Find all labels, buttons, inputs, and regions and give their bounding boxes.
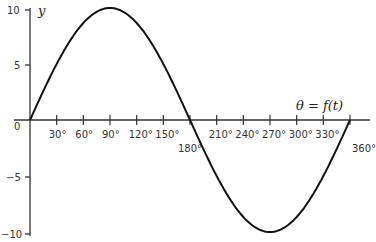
y-tick-neg5: −5 bbox=[6, 172, 21, 183]
x-tick-300: 300° bbox=[289, 129, 313, 140]
x-tick-240: 240° bbox=[235, 129, 259, 140]
x-tick-210: 210° bbox=[209, 129, 233, 140]
sine-chart: 30°60°90°120°150°180°210°240°270°300°330… bbox=[0, 0, 376, 242]
y-tick-neg10: −10 bbox=[1, 229, 22, 240]
x-tick-180: 180° bbox=[178, 143, 202, 154]
x-tick-120: 120° bbox=[129, 129, 153, 140]
y-axis-label: y bbox=[37, 3, 46, 18]
x-tick-60: 60° bbox=[75, 129, 93, 140]
y-tick-0: 0 bbox=[14, 121, 20, 132]
x-tick-90: 90° bbox=[102, 129, 120, 140]
x-tick-360: 360° bbox=[352, 143, 376, 154]
x-tick-150: 150° bbox=[155, 129, 179, 140]
x-tick-30: 30° bbox=[49, 129, 67, 140]
y-tick-5: 5 bbox=[14, 60, 20, 71]
x-tick-330: 330° bbox=[315, 129, 339, 140]
x-axis-label: θ = f(t) bbox=[296, 98, 343, 113]
y-tick-10: 10 bbox=[7, 5, 20, 16]
x-tick-270: 270° bbox=[262, 129, 286, 140]
